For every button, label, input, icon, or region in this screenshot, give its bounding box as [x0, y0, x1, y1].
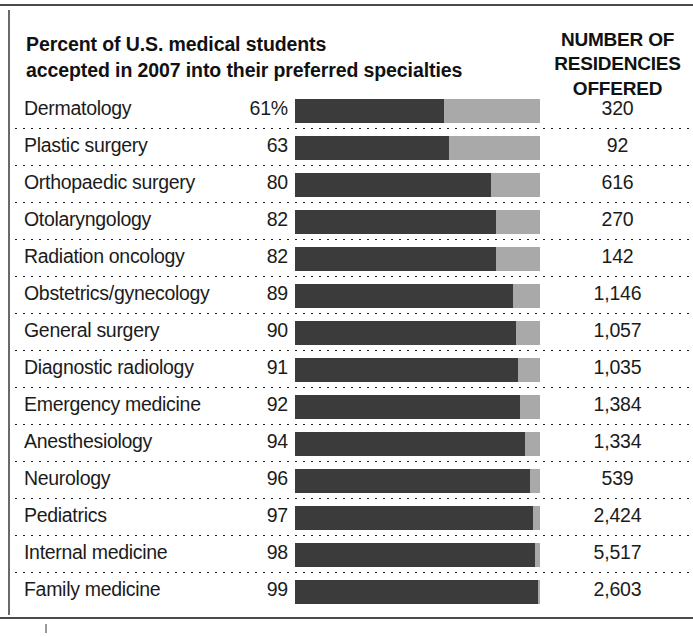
- table-row: Radiation oncology82142: [0, 241, 693, 278]
- residencies-count: 320: [545, 97, 690, 120]
- title-line-2: accepted in 2007 into their preferred sp…: [26, 58, 526, 84]
- percent-value: 61%: [196, 97, 288, 120]
- table-row: Internal medicine985,517: [0, 537, 693, 574]
- residencies-count: 1,146: [545, 282, 690, 305]
- bar-track: [295, 284, 540, 308]
- chart-figure: Percent of U.S. medical students accepte…: [0, 0, 693, 637]
- bar-fill: [295, 210, 496, 234]
- percent-value: 82: [196, 208, 288, 231]
- bar-fill: [295, 247, 496, 271]
- bar-fill: [295, 99, 444, 123]
- bar-track: [295, 506, 540, 530]
- table-row: Obstetrics/gynecology891,146: [0, 278, 693, 315]
- residencies-count: 2,424: [545, 504, 690, 527]
- table-row: Diagnostic radiology911,035: [0, 352, 693, 389]
- percent-value: 63: [196, 134, 288, 157]
- table-row: Dermatology61%320: [0, 93, 693, 130]
- bar-fill: [295, 173, 491, 197]
- chart-rows: Dermatology61%320Plastic surgery6392Orth…: [0, 93, 693, 611]
- bar-track: [295, 247, 540, 271]
- chart-header: Percent of U.S. medical students accepte…: [0, 10, 693, 90]
- column-header-line-2: RESIDENCIES: [545, 52, 690, 76]
- residencies-count: 270: [545, 208, 690, 231]
- bar-fill: [295, 469, 530, 493]
- percent-value: 98: [196, 541, 288, 564]
- bottom-tick-mark: [45, 624, 47, 633]
- table-row: Plastic surgery6392: [0, 130, 693, 167]
- residencies-count: 1,384: [545, 393, 690, 416]
- column-header-line-1: NUMBER OF: [545, 28, 690, 52]
- residencies-count: 1,334: [545, 430, 690, 453]
- table-row: Emergency medicine921,384: [0, 389, 693, 426]
- percent-value: 89: [196, 282, 288, 305]
- percent-value: 96: [196, 467, 288, 490]
- percent-value: 97: [196, 504, 288, 527]
- bar-fill: [295, 136, 449, 160]
- bar-track: [295, 432, 540, 456]
- percent-value: 90: [196, 319, 288, 342]
- bar-fill: [295, 395, 520, 419]
- bar-fill: [295, 580, 538, 604]
- bar-track: [295, 321, 540, 345]
- bar-fill: [295, 284, 513, 308]
- bar-fill: [295, 358, 518, 382]
- residencies-count: 2,603: [545, 578, 690, 601]
- table-row: Pediatrics972,424: [0, 500, 693, 537]
- percent-value: 94: [196, 430, 288, 453]
- residencies-column-header: NUMBER OF RESIDENCIES OFFERED: [545, 28, 690, 101]
- residencies-count: 616: [545, 171, 690, 194]
- percent-value: 91: [196, 356, 288, 379]
- bar-track: [295, 210, 540, 234]
- bar-track: [295, 136, 540, 160]
- percent-value: 92: [196, 393, 288, 416]
- bar-track: [295, 469, 540, 493]
- bar-track: [295, 173, 540, 197]
- residencies-count: 5,517: [545, 541, 690, 564]
- percent-value: 80: [196, 171, 288, 194]
- bar-fill: [295, 321, 516, 345]
- table-row: Neurology96539: [0, 463, 693, 500]
- residencies-count: 539: [545, 467, 690, 490]
- table-row: General surgery901,057: [0, 315, 693, 352]
- bar-track: [295, 358, 540, 382]
- bar-track: [295, 395, 540, 419]
- percent-value: 99: [196, 578, 288, 601]
- page-title: Percent of U.S. medical students accepte…: [26, 32, 526, 83]
- bar-fill: [295, 432, 525, 456]
- percent-value: 82: [196, 245, 288, 268]
- title-line-1: Percent of U.S. medical students: [26, 32, 526, 58]
- residencies-count: 1,057: [545, 319, 690, 342]
- bar-fill: [295, 506, 533, 530]
- top-rule: [0, 4, 693, 6]
- table-row: Family medicine992,603: [0, 574, 693, 611]
- residencies-count: 92: [545, 134, 690, 157]
- bar-fill: [295, 543, 535, 567]
- residencies-count: 1,035: [545, 356, 690, 379]
- table-row: Otolaryngology82270: [0, 204, 693, 241]
- bottom-rule: [0, 617, 693, 619]
- residencies-count: 142: [545, 245, 690, 268]
- bar-track: [295, 580, 540, 604]
- bar-track: [295, 543, 540, 567]
- bar-track: [295, 99, 540, 123]
- table-row: Orthopaedic surgery80616: [0, 167, 693, 204]
- table-row: Anesthesiology941,334: [0, 426, 693, 463]
